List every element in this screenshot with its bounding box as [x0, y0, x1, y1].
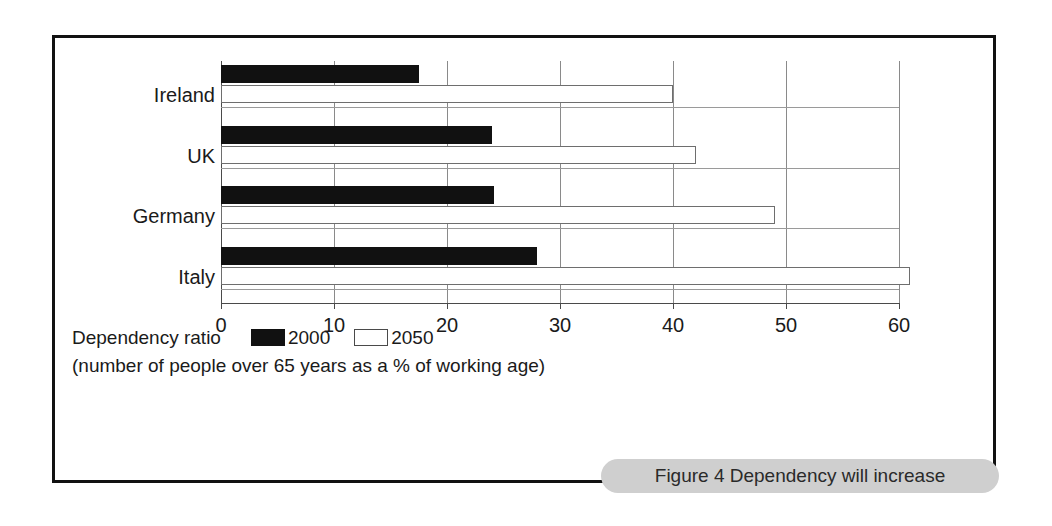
bar-uk-2000 [221, 126, 492, 144]
x-tick-label-40: 40 [662, 314, 684, 337]
x-tick-50 [786, 303, 787, 309]
x-tick-10 [334, 303, 335, 309]
bar-germany-2000 [221, 186, 494, 204]
figure-caption: Figure 4 Dependency will increase [601, 459, 999, 493]
figure-caption-text: Figure 4 Dependency will increase [655, 465, 945, 487]
hollow-white-swatch-icon [354, 329, 388, 346]
category-label-uk: UK [187, 145, 215, 168]
legend-entry-2000: 2000 [251, 325, 330, 351]
x-tick-40 [673, 303, 674, 309]
bar-band [221, 85, 899, 103]
figure-frame: IrelandUKGermanyItaly 0102030405060 [52, 35, 996, 483]
plot-area [221, 61, 899, 303]
bar-uk-2050 [221, 146, 696, 164]
band-separator [221, 228, 899, 229]
filled-black-swatch-icon [251, 329, 285, 346]
x-tick-60 [899, 303, 900, 309]
band-separator [221, 168, 899, 169]
bar-ireland-2000 [221, 65, 419, 83]
bar-band [221, 267, 899, 285]
bar-band [221, 206, 899, 224]
legend-row: Dependency ratio 2000 2050 [72, 325, 545, 351]
bar-italy-2050 [221, 267, 910, 285]
bar-band [221, 186, 899, 204]
category-label-italy: Italy [178, 266, 215, 289]
legend-label-2000: 2000 [288, 325, 330, 351]
x-tick-label-30: 30 [549, 314, 571, 337]
bar-band [221, 146, 899, 164]
legend-entry-2050: 2050 [354, 325, 433, 351]
legend-title: Dependency ratio [72, 325, 221, 351]
chart-legend: Dependency ratio 2000 2050 (number of pe… [72, 325, 545, 378]
legend-note: (number of people over 65 years as a % o… [72, 353, 545, 379]
category-label-ireland: Ireland [154, 84, 215, 107]
bar-band [221, 65, 899, 83]
category-label-germany: Germany [133, 205, 215, 228]
x-tick-label-50: 50 [775, 314, 797, 337]
bar-italy-2000 [221, 247, 537, 265]
x-tick-0 [221, 303, 222, 309]
bar-ireland-2050 [221, 85, 673, 103]
category-axis: IrelandUKGermanyItaly [65, 61, 215, 303]
bar-germany-2050 [221, 206, 775, 224]
figure-page: { "figure": { "caption": "Figure 4 Depen… [0, 0, 1052, 526]
band-separator [221, 107, 899, 108]
bar-band [221, 247, 899, 265]
legend-label-2050: 2050 [391, 325, 433, 351]
bar-band [221, 126, 899, 144]
x-tick-20 [447, 303, 448, 309]
x-tick-30 [560, 303, 561, 309]
band-separator [221, 289, 899, 290]
x-tick-label-60: 60 [888, 314, 910, 337]
